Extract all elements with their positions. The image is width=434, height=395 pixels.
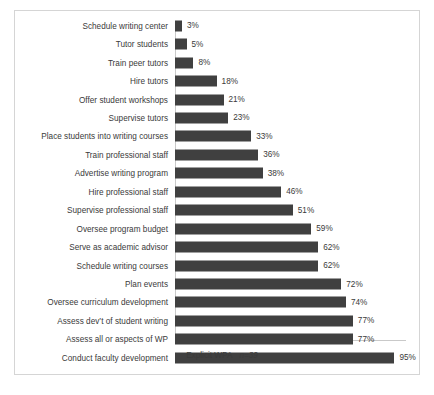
category-label: Advertise writing program xyxy=(75,169,168,178)
bar-track: 38% xyxy=(175,168,419,179)
category-label: Hire tutors xyxy=(130,77,168,86)
legend-series-label: Explicit WPA xyxy=(186,351,232,360)
bar-row: Hire tutors18% xyxy=(15,72,419,90)
bar-row: Tutor students5% xyxy=(15,35,419,53)
bar-value-label: 62% xyxy=(318,261,339,270)
bar-track: 8% xyxy=(175,57,419,68)
category-label: Tutor students xyxy=(116,40,168,49)
bar-value-label: 74% xyxy=(346,298,367,307)
category-label: Place students into writing courses xyxy=(41,132,168,141)
category-label: Plan events xyxy=(125,280,168,289)
bar-value-label: 59% xyxy=(311,224,332,233)
bar-value-label: 23% xyxy=(228,113,249,122)
category-label: Supervise tutors xyxy=(109,113,168,122)
category-label: Train professional staff xyxy=(85,150,168,159)
bar-track: 72% xyxy=(175,279,419,290)
bar xyxy=(175,334,353,345)
bar-track: 59% xyxy=(175,223,419,234)
bar-track: 62% xyxy=(175,260,419,271)
bar xyxy=(175,131,251,142)
bar-value-label: 38% xyxy=(263,169,284,178)
bar-track: 46% xyxy=(175,186,419,197)
category-label: Serve as academic advisor xyxy=(69,243,168,252)
category-label: Schedule writing center xyxy=(82,21,168,30)
bar-value-label: 51% xyxy=(293,206,314,215)
bar xyxy=(175,223,311,234)
bar-value-label: 21% xyxy=(224,95,245,104)
bar xyxy=(175,57,193,68)
legend-swatch-icon xyxy=(176,353,182,359)
bar-row: Place students into writing courses33% xyxy=(15,127,419,145)
bar xyxy=(175,242,318,253)
bar-value-label: 77% xyxy=(353,335,374,344)
bar-value-label: 18% xyxy=(217,77,238,86)
category-label: Train peer tutors xyxy=(108,58,168,67)
bar xyxy=(175,186,281,197)
bar-row: Train peer tutors8% xyxy=(15,53,419,71)
bar-track: 18% xyxy=(175,76,419,87)
bar-row: Supervise tutors23% xyxy=(15,109,419,127)
bar xyxy=(175,205,293,216)
bar xyxy=(175,297,346,308)
bar xyxy=(175,315,353,326)
bar-value-label: 46% xyxy=(281,187,302,196)
category-label: Schedule writing courses xyxy=(77,261,169,270)
bar-value-label: 77% xyxy=(353,316,374,325)
bar xyxy=(175,94,224,105)
category-label: Oversee program budget xyxy=(77,224,168,233)
bar xyxy=(175,20,182,31)
bar-value-label: 8% xyxy=(193,58,210,67)
bar xyxy=(175,112,228,123)
bar-track: 23% xyxy=(175,112,419,123)
bar-value-label: 36% xyxy=(258,150,279,159)
bar-row: Schedule writing center3% xyxy=(15,17,419,35)
category-label: Offer student workshops xyxy=(79,95,168,104)
bar xyxy=(175,149,258,160)
bar-row: Assess all or aspects of WP77% xyxy=(15,330,419,348)
bar xyxy=(175,76,217,87)
bar-value-label: 72% xyxy=(341,280,362,289)
bar-value-label: 5% xyxy=(187,40,204,49)
bar-row: Offer student workshops21% xyxy=(15,90,419,108)
bar-row: Advertise writing program38% xyxy=(15,164,419,182)
bar-row: Serve as academic advisor62% xyxy=(15,238,419,256)
bar-row: Assess dev’t of student writing77% xyxy=(15,312,419,330)
bar-track: 21% xyxy=(175,94,419,105)
category-label: Supervise professional staff xyxy=(67,206,168,215)
bar-row: Plan events72% xyxy=(15,275,419,293)
chart-frame: Schedule writing center3%Tutor students5… xyxy=(14,10,420,375)
category-label: Assess all or aspects of WP xyxy=(66,335,168,344)
bar-track: 77% xyxy=(175,334,419,345)
bar xyxy=(175,279,341,290)
chart-legend: Explicit WPA n=39 xyxy=(15,351,419,360)
bar-row: Supervise professional staff51% xyxy=(15,201,419,219)
category-label: Hire professional staff xyxy=(89,187,169,196)
bar-row: Oversee curriculum development74% xyxy=(15,293,419,311)
bar-track: 74% xyxy=(175,297,419,308)
bar-track: 62% xyxy=(175,242,419,253)
bar-row: Schedule writing courses62% xyxy=(15,256,419,274)
category-label: Oversee curriculum development xyxy=(47,298,168,307)
bar-track: 5% xyxy=(175,39,419,50)
bar-track: 36% xyxy=(175,149,419,160)
bar-value-label: 62% xyxy=(318,243,339,252)
bar-value-label: 33% xyxy=(251,132,272,141)
category-label: Assess dev’t of student writing xyxy=(57,316,168,325)
bar xyxy=(175,39,187,50)
bar xyxy=(175,260,318,271)
bar-track: 33% xyxy=(175,131,419,142)
legend-sample-size: n=39 xyxy=(239,351,257,360)
bar-row: Oversee program budget59% xyxy=(15,219,419,237)
bar-value-label: 3% xyxy=(182,21,199,30)
bar-track: 3% xyxy=(175,20,419,31)
bar xyxy=(175,168,263,179)
plot-area: Schedule writing center3%Tutor students5… xyxy=(15,11,419,374)
bar-row: Hire professional staff46% xyxy=(15,183,419,201)
bar-track: 51% xyxy=(175,205,419,216)
bar-track: 77% xyxy=(175,315,419,326)
bar-row: Train professional staff36% xyxy=(15,146,419,164)
